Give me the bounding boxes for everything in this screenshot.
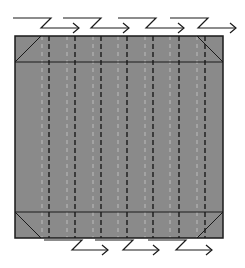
paper-fill [15, 36, 223, 238]
folding-diagram [0, 0, 245, 268]
paper-square [15, 36, 223, 238]
